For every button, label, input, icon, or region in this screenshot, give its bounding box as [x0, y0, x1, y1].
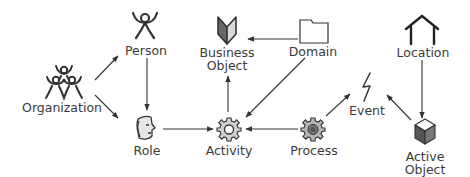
- person-icon: [133, 13, 157, 38]
- gear-hollow-icon: [217, 118, 241, 141]
- edge-process-event: [326, 94, 350, 116]
- node-label-location: Location: [397, 46, 450, 60]
- edge-domain-activity: [246, 58, 305, 117]
- folder-icon: [300, 20, 328, 43]
- people-pyramid-icon: [46, 66, 82, 98]
- node-label-domain: Domain: [289, 45, 338, 59]
- house-icon: [406, 16, 438, 44]
- node-label-active-object-line2: Object: [405, 163, 446, 177]
- lightning-bolt-icon: [363, 73, 370, 101]
- edge-organization-person: [95, 56, 118, 80]
- cube-icon: [415, 119, 435, 144]
- open-book-icon: [218, 17, 236, 44]
- node-label-role: Role: [134, 144, 161, 158]
- node-label-business-object-line2: Object: [207, 59, 248, 73]
- edge-active-object-event: [387, 95, 411, 120]
- node-label-event: Event: [349, 104, 385, 118]
- node-label-organization: Organization: [22, 101, 102, 115]
- gear-filled-icon: [301, 118, 325, 141]
- node-label-activity: Activity: [206, 144, 253, 158]
- mask-face-icon: [137, 116, 155, 139]
- node-label-person: Person: [125, 44, 167, 58]
- node-label-process: Process: [290, 144, 337, 158]
